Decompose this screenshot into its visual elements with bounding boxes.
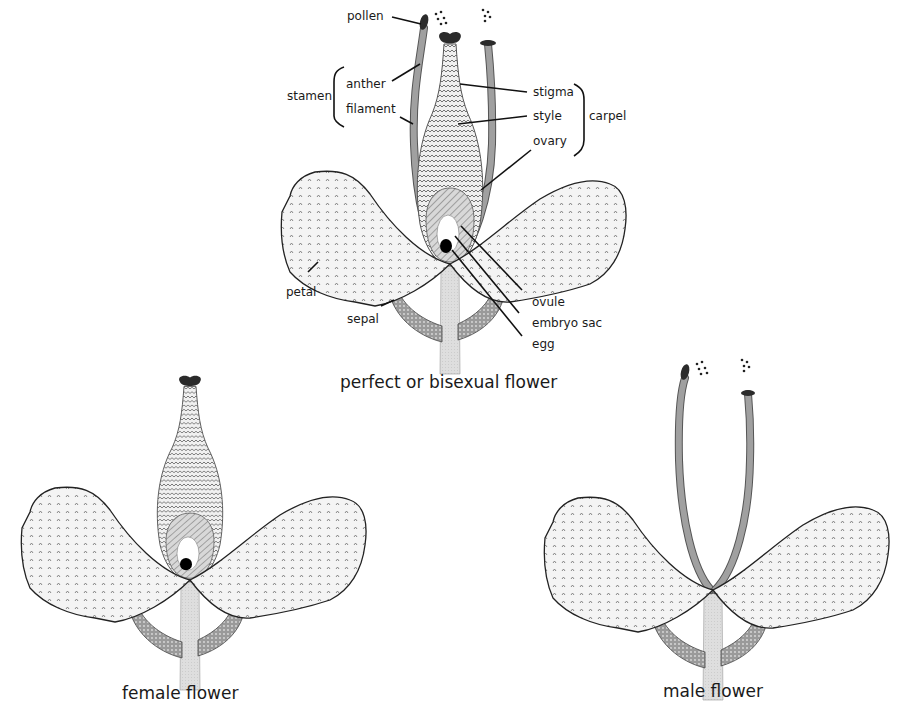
label-ovary: ovary [533,134,567,148]
pollen-grains [435,9,492,26]
stem [440,266,460,374]
label-sepal: sepal [347,312,379,326]
caption-female-flower: female flower [122,683,238,703]
female-flower [21,376,366,690]
label-stigma: stigma [533,85,574,99]
pollen-grains [696,359,751,376]
anther-right [480,40,496,46]
label-petal: petal [286,285,316,299]
stem [180,582,200,690]
label-embryo-sac: embryo sac [532,316,602,330]
carpel [157,376,222,582]
label-carpel: carpel [589,109,626,123]
label-ovule: ovule [532,295,565,309]
flower-diagram: pollen anther filament stamen stigma sty… [0,0,920,718]
carpel [417,32,482,266]
anther-left [418,13,430,31]
label-pollen: pollen [347,9,384,23]
label-stamen: stamen [287,89,332,103]
anther-right [741,390,755,396]
male-flower [544,359,889,700]
label-egg: egg [532,337,555,351]
label-style: style [533,109,562,123]
label-anther: anther [346,77,386,91]
label-filament: filament [346,102,396,116]
caption-perfect-flower: perfect or bisexual flower [340,372,557,392]
caption-male-flower: male flower [663,681,763,701]
